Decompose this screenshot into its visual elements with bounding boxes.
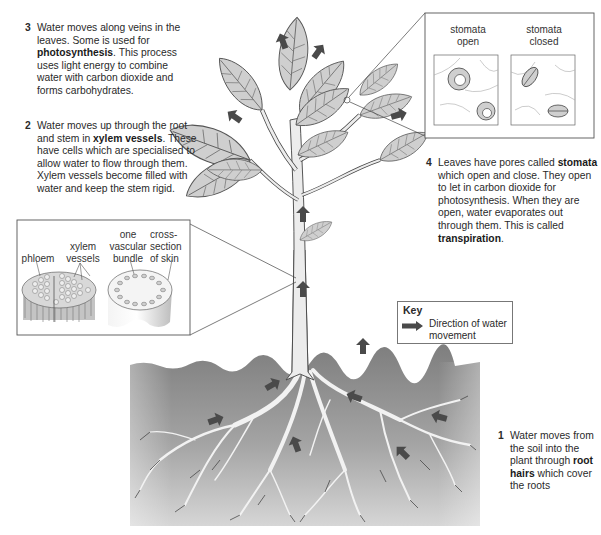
phloem-label: phloem bbox=[18, 253, 58, 265]
key-description: Direction of water movement bbox=[429, 318, 507, 341]
step-3-text: 3 Water moves along veins in the leaves.… bbox=[37, 22, 192, 98]
key-description-line2: movement bbox=[429, 330, 507, 342]
key-legend: Key Direction of water movement bbox=[397, 301, 513, 344]
step-4-part: which open and close. They open to let i… bbox=[438, 170, 591, 231]
stomata-open-label-line2: open bbox=[440, 36, 496, 48]
skin-label-line3: of skin bbox=[150, 253, 190, 265]
step-2-term-xylem-vessels: xylem vessels bbox=[93, 133, 162, 144]
vascular-bundle-label: one vascular bundle bbox=[105, 229, 151, 265]
stomata-open-label-line1: stomata bbox=[440, 24, 496, 36]
dark-arrow-icon bbox=[402, 321, 424, 331]
step-3-part: Water moves along veins in the leaves. S… bbox=[37, 22, 180, 46]
step-3-term-photosynthesis: photosynthesis bbox=[37, 47, 113, 58]
vessel-bundle-icon bbox=[22, 272, 96, 322]
step-4-term-stomata: stomata bbox=[558, 157, 597, 168]
step-4-part: . bbox=[501, 233, 504, 244]
step-2-number: 2 bbox=[25, 120, 31, 133]
stomata-closed-label-line2: closed bbox=[516, 36, 572, 48]
bundle-label-line1: one bbox=[105, 229, 151, 241]
cylinder-icon bbox=[108, 270, 172, 327]
xylem-label-line2: vessels bbox=[60, 253, 106, 265]
step-1-number: 1 bbox=[498, 430, 504, 443]
step-4-text: 4 Leaves have pores called stomata which… bbox=[438, 157, 598, 245]
step-4-number: 4 bbox=[426, 157, 432, 170]
key-title: Key bbox=[403, 304, 422, 316]
stomata-open-label: stomata open bbox=[440, 24, 496, 48]
bundle-label-line3: bundle bbox=[105, 253, 151, 265]
skin-section-label: cross- section of skin bbox=[150, 229, 190, 265]
step-3-number: 3 bbox=[25, 22, 31, 35]
bundle-label-line2: vascular bbox=[105, 241, 151, 253]
xylem-vessels-label: xylem vessels bbox=[60, 241, 106, 265]
step-4-part: Leaves have pores called bbox=[438, 157, 558, 168]
skin-label-line1: cross- bbox=[150, 229, 190, 241]
step-2-text: 2 Water moves up through the root and st… bbox=[37, 120, 197, 196]
skin-label-line2: section bbox=[150, 241, 190, 253]
stomata-closed-label-line1: stomata bbox=[516, 24, 572, 36]
stomata-closed-label: stomata closed bbox=[516, 24, 572, 48]
xylem-label-line1: xylem bbox=[60, 241, 106, 253]
key-description-line1: Direction of water bbox=[429, 318, 507, 330]
step-1-text: 1 Water moves from the soil into the pla… bbox=[510, 430, 600, 493]
step-4-term-transpiration: transpiration bbox=[438, 233, 501, 244]
